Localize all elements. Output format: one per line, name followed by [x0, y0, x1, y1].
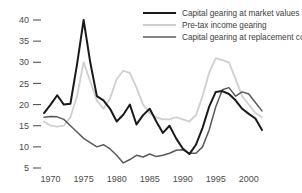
y-tick-label: 40 [19, 15, 29, 25]
y-tick-label: 30 [19, 57, 29, 67]
legend-label: Capital gearing at replacement cost [182, 33, 302, 42]
y-tick-label: 20 [19, 100, 29, 110]
x-tick-label: 1990 [173, 174, 193, 184]
y-tick-label: 15 [19, 121, 29, 131]
line-chart: 510152025303540 197019751980198519901995… [0, 0, 302, 193]
x-tick-label: 1995 [206, 174, 226, 184]
y-axis-ticks: 510152025303540 [19, 15, 41, 173]
x-tick-label: 2000 [239, 174, 259, 184]
chart-legend: Capital gearing at market valuesPre-tax … [143, 9, 302, 42]
y-tick-label: 35 [19, 36, 29, 46]
x-tick-label: 1970 [41, 174, 61, 184]
y-tick-label: 5 [24, 163, 29, 173]
chart-container: 510152025303540 197019751980198519901995… [0, 0, 302, 193]
y-tick-label: 25 [19, 79, 29, 89]
x-tick-label: 1985 [140, 174, 160, 184]
x-tick-label: 1975 [74, 174, 94, 184]
y-tick-label: 10 [19, 142, 29, 152]
x-tick-label: 1980 [107, 174, 127, 184]
legend-label: Pre-tax income gearing [182, 21, 267, 30]
x-axis-ticks: 1970197519801985199019952000 [41, 174, 259, 184]
legend-label: Capital gearing at market values [182, 9, 299, 18]
